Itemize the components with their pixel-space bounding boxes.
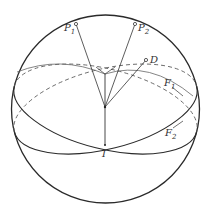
point-p1 [74,22,77,25]
vectors [76,24,146,145]
label-f2: F2 [164,127,177,141]
short-diag [96,67,105,74]
label-d: D [149,54,158,65]
point-p2 [133,22,136,25]
vector-p1 [76,24,105,107]
sphere-outline [12,15,200,203]
center-point [104,106,106,108]
label-f1: F1 [163,77,175,91]
vector-p2 [105,24,135,107]
label-p2: P2 [137,22,150,36]
vector-d [105,60,146,107]
label-p1: P1 [63,22,75,36]
sphere-diagram: P1 P2 D F1 F2 I [0,0,210,216]
point-d [144,58,147,61]
point-i [104,144,106,146]
